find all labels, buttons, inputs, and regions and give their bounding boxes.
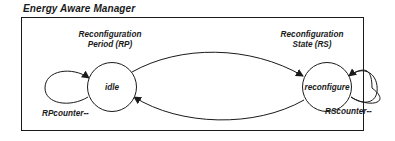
idle-self-loop-transition <box>45 71 89 103</box>
rp-group-label-line1: Reconfiguration <box>79 30 142 39</box>
state-reconfigure-label: reconfigure <box>304 83 349 92</box>
rs-group-label-line2: State (RS) <box>292 40 331 49</box>
rs-counter-label: RScounter-- <box>325 107 372 116</box>
rs-group-label-line1: Reconfiguration <box>281 30 344 39</box>
reconfigure-self-loop-transition <box>351 70 380 103</box>
transition-idle-to-reconfigure <box>132 52 303 76</box>
rp-counter-label: RPcounter-- <box>42 109 89 118</box>
state-diagram: Reconfiguration Period (RP) Reconfigurat… <box>0 0 395 141</box>
transition-reconfigure-to-idle <box>134 97 304 120</box>
rp-group-label-line2: Period (RP) <box>88 40 133 49</box>
state-idle-label: idle <box>105 83 120 92</box>
